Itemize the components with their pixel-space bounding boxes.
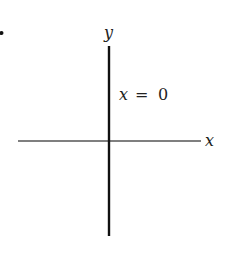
- bullet-dot: [0, 31, 4, 35]
- line-label-eq: =: [135, 85, 148, 104]
- x-axis-label: x: [205, 131, 214, 150]
- line-label: x = 0: [119, 85, 168, 104]
- line-label-val: 0: [158, 85, 168, 104]
- diagram-canvas: y x x = 0: [0, 0, 227, 253]
- line-label-var: x: [119, 85, 128, 104]
- y-axis-label: y: [103, 23, 114, 42]
